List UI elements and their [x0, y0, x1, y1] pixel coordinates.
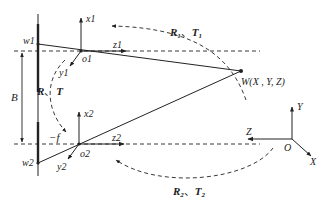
world-x-label: X	[309, 156, 317, 167]
relative-transform-label: R、T	[36, 85, 64, 97]
z2-label: z2	[111, 132, 121, 143]
x1-label: x1	[85, 13, 95, 24]
stereo-vision-diagram: x1 z1 o1 y1 w1 x2 z2 o2 y2 w2 B −f R、T R…	[0, 0, 326, 206]
baseline-label: B	[11, 91, 18, 103]
world-x-axis-arrow	[292, 139, 311, 156]
world-z-label: Z	[246, 126, 252, 137]
w2-dot	[37, 162, 40, 165]
world-point-dot	[239, 69, 243, 73]
world-y-label: Y	[297, 101, 304, 112]
focal-length-label: −f	[49, 131, 61, 143]
ray-2	[38, 71, 241, 163]
world-origin-label: O	[284, 142, 291, 153]
z1-label: z1	[112, 39, 122, 50]
transform-1-label: R1、T1	[169, 26, 202, 40]
y2-label: y2	[56, 161, 66, 172]
w1-dot	[37, 43, 40, 46]
diagram-canvas: x1 z1 o1 y1 w1 x2 z2 o2 y2 w2 B −f R、T R…	[0, 0, 326, 206]
o1-label: o1	[82, 53, 92, 64]
o2-label: o2	[80, 148, 90, 159]
y1-axis-arrow	[70, 51, 81, 66]
w2-label: w2	[22, 157, 34, 168]
transform-2-curve	[116, 148, 273, 178]
y2-axis-arrow	[68, 144, 79, 159]
x2-label: x2	[83, 108, 93, 119]
transform-2-label: R2、T2	[172, 185, 206, 199]
w1-label: w1	[23, 35, 35, 46]
world-point-label: W(X , Y, Z)	[241, 76, 285, 88]
y1-label: y1	[58, 67, 68, 78]
